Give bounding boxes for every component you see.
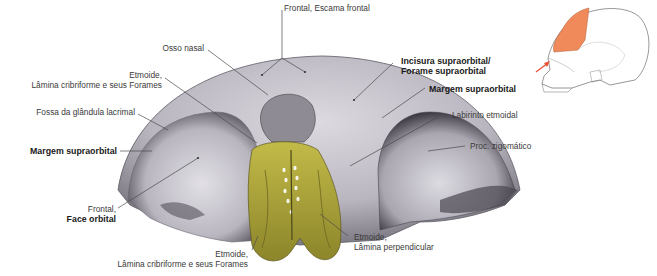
label-osso-nasal: Osso nasal [134,44,204,54]
label-etmoide-perpendicular: Etmoide, Lâmina perpendicular [354,233,434,252]
label-margem-supraorbital-right: Margem supraorbital [429,84,516,94]
label-etmoide-cribriform-top: Etmoide, Lâmina cribriforme e seus Foram… [10,71,162,90]
inset-skull [536,8,649,92]
label-frontal-escama: Frontal, Escama frontal [284,4,370,14]
label-frontal-face-orbital: Frontal, Face orbital [40,205,116,224]
frontal-bone-illustration [0,0,657,276]
anatomy-figure: Frontal, Escama frontal Osso nasal Etmoi… [0,0,657,276]
nasal-bone [260,94,315,142]
label-incisura-supraorbital: Incisura supraorbital/ Forame supraorbit… [401,56,490,76]
label-proc-zigomatico: Proc. zigomático [470,142,531,152]
label-fossa-lacrimal: Fossa da glândula lacrimal [10,108,135,118]
label-margem-supraorbital-left: Margem supraorbital [10,146,117,156]
label-labirinto-etmoidal: Labirinto etmoidal [452,111,518,121]
label-etmoide-cribriform-bottom: Etmoide, Lâmina cribriforme e seus Foram… [100,250,248,269]
